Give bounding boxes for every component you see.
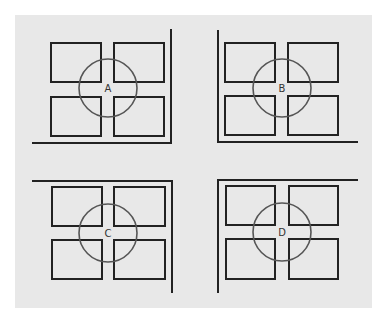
label-b: B xyxy=(279,83,286,94)
label-c: C xyxy=(105,228,112,239)
label-a: A xyxy=(105,83,112,94)
panel-background xyxy=(15,15,372,308)
label-d: D xyxy=(278,227,286,238)
diagram-canvas: A B C D xyxy=(0,0,385,320)
